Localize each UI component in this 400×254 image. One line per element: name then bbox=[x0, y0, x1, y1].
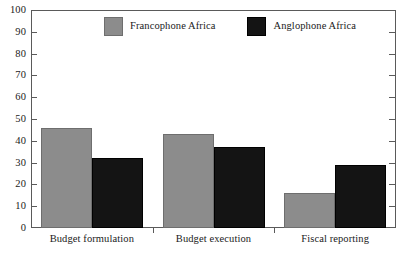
legend-swatch bbox=[247, 17, 266, 36]
y-tick-mark-right bbox=[389, 97, 395, 98]
y-tick-mark-left bbox=[31, 119, 37, 120]
y-tick-label: 70 bbox=[0, 70, 26, 81]
y-tick-label: 90 bbox=[0, 27, 26, 38]
x-category-label: Fiscal reporting bbox=[301, 233, 369, 245]
y-tick-mark-left bbox=[31, 184, 37, 185]
legend-entry: Francophone Africa bbox=[104, 17, 215, 36]
y-tick-label: 0 bbox=[0, 223, 26, 234]
y-tick-mark-right bbox=[389, 163, 395, 164]
y-axis-labels: 0102030405060708090100 bbox=[0, 10, 26, 228]
y-tick-mark-right bbox=[389, 54, 395, 55]
legend: Francophone AfricaAnglophone Africa bbox=[104, 17, 356, 36]
y-tick-mark-left bbox=[31, 97, 37, 98]
y-tick-mark-right bbox=[389, 141, 395, 142]
x-tick-mark bbox=[274, 228, 275, 233]
y-tick-mark-left bbox=[31, 141, 37, 142]
y-tick-label: 60 bbox=[0, 92, 26, 103]
bar-chart: 0102030405060708090100 Budget formulatio… bbox=[0, 0, 400, 254]
y-tick-label: 100 bbox=[0, 5, 26, 16]
y-tick-label: 80 bbox=[0, 48, 26, 59]
y-tick-mark-right bbox=[389, 32, 395, 33]
y-tick-mark-right bbox=[389, 119, 395, 120]
y-tick-label: 30 bbox=[0, 157, 26, 168]
y-tick-label: 40 bbox=[0, 136, 26, 147]
y-tick-mark-left bbox=[31, 54, 37, 55]
legend-swatch bbox=[104, 17, 123, 36]
y-tick-mark-right bbox=[389, 206, 395, 207]
y-tick-mark-left bbox=[31, 163, 37, 164]
x-category-label: Budget execution bbox=[176, 233, 251, 245]
x-tick-mark bbox=[153, 228, 154, 233]
y-tick-mark-left bbox=[31, 75, 37, 76]
plot-area bbox=[31, 10, 396, 228]
legend-label: Anglophone Africa bbox=[273, 21, 355, 32]
y-tick-mark-right bbox=[389, 184, 395, 185]
y-tick-mark-left bbox=[31, 206, 37, 207]
y-tick-mark-right bbox=[389, 75, 395, 76]
y-tick-mark-left bbox=[31, 32, 37, 33]
legend-entry: Anglophone Africa bbox=[247, 17, 355, 36]
legend-label: Francophone Africa bbox=[130, 21, 215, 32]
y-tick-label: 20 bbox=[0, 179, 26, 190]
y-tick-label: 10 bbox=[0, 201, 26, 212]
x-category-label: Budget formulation bbox=[50, 233, 134, 245]
y-tick-label: 50 bbox=[0, 114, 26, 125]
